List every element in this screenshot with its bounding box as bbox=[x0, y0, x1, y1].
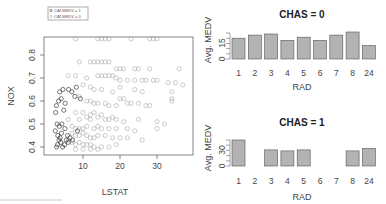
scatter-point bbox=[133, 87, 137, 91]
scatter-point bbox=[99, 127, 103, 131]
scatter-point bbox=[59, 131, 63, 135]
scatter-point bbox=[63, 127, 67, 131]
bar-chas-1-ylabel: Avg. MEDV bbox=[203, 125, 213, 171]
bar-chas-1-x-axis: 1234567824 bbox=[236, 176, 374, 186]
bar bbox=[281, 151, 294, 166]
scatter-ytick-0.6: 0.6 bbox=[27, 95, 37, 107]
scatter-point bbox=[66, 74, 70, 78]
scatter-point bbox=[177, 67, 181, 71]
scatter-point bbox=[148, 67, 152, 71]
scatter-point bbox=[118, 85, 122, 89]
scatter-point bbox=[125, 127, 129, 131]
scatter-point bbox=[88, 147, 92, 151]
bar-chas-0-ytick-15: 15 bbox=[217, 38, 227, 48]
scatter-point bbox=[122, 120, 126, 124]
scatter-point bbox=[173, 81, 177, 85]
scatter-point bbox=[96, 133, 100, 137]
scatter-point bbox=[74, 147, 78, 151]
scatter-point bbox=[88, 117, 92, 121]
scatter-point bbox=[181, 83, 185, 87]
scatter-point bbox=[73, 94, 77, 98]
bar-chart-chas-0-title: CHAS = 0 bbox=[279, 9, 325, 20]
scatter-point bbox=[71, 138, 75, 142]
bar-xtick: 6 bbox=[318, 68, 323, 78]
bar bbox=[314, 40, 327, 59]
scatter-point bbox=[96, 147, 100, 151]
bars-chas-1 bbox=[232, 140, 375, 166]
scatter-point bbox=[74, 110, 78, 114]
scatter-point bbox=[125, 78, 129, 82]
scatter-xtick-20: 20 bbox=[115, 161, 125, 171]
scatter-ylabel: NOX bbox=[6, 86, 16, 106]
scatter-point bbox=[63, 101, 67, 105]
bar bbox=[346, 32, 359, 59]
bar-xtick: 24 bbox=[364, 176, 374, 186]
bar-xtick: 6 bbox=[318, 176, 323, 186]
scatter-point bbox=[107, 127, 111, 131]
bar-xtick: 2 bbox=[252, 68, 257, 78]
bar-xtick: 3 bbox=[269, 176, 274, 186]
bar-xtick: 4 bbox=[285, 68, 290, 78]
scatter-point bbox=[92, 87, 96, 91]
scatter-point bbox=[85, 124, 89, 128]
bar-chas-0-xlabel: RAD bbox=[292, 82, 312, 92]
scatter-point bbox=[77, 60, 81, 64]
scatter-x-axis bbox=[83, 155, 157, 159]
bar-xtick: 2 bbox=[252, 176, 257, 186]
bar bbox=[330, 35, 343, 59]
scatter-point bbox=[114, 127, 118, 131]
scatter-point bbox=[62, 108, 66, 112]
scatter-xtick-30: 30 bbox=[152, 161, 162, 171]
bar-xtick: 1 bbox=[236, 68, 241, 78]
scatter-point bbox=[59, 97, 63, 101]
bar-chas-0-x-axis: 1234567824 bbox=[236, 68, 374, 78]
scatter-point bbox=[129, 37, 133, 41]
bar bbox=[297, 37, 310, 59]
bar bbox=[297, 150, 310, 166]
legend-label-cat1: CAT.MEDV = 1 bbox=[54, 8, 81, 13]
bar-xtick: 3 bbox=[269, 68, 274, 78]
scatter-point bbox=[77, 117, 81, 121]
scatter-point bbox=[74, 74, 78, 78]
scatter-point bbox=[54, 110, 58, 114]
scatter-point bbox=[114, 117, 118, 121]
scatter-point bbox=[136, 101, 140, 105]
scatter-y-axis bbox=[40, 55, 44, 147]
bar bbox=[248, 35, 261, 59]
scatter-point bbox=[114, 104, 118, 108]
bar-xtick: 5 bbox=[301, 176, 306, 186]
bar-xtick: 8 bbox=[350, 176, 355, 186]
scatter-point bbox=[162, 122, 166, 126]
scatter-point bbox=[96, 115, 100, 119]
scatter-point bbox=[140, 90, 144, 94]
scatter-point bbox=[118, 78, 122, 82]
bar bbox=[346, 151, 359, 166]
scatter-ytick-0.8: 0.8 bbox=[27, 49, 37, 61]
scatter-point bbox=[65, 133, 69, 137]
bar bbox=[265, 150, 278, 166]
scatter-point bbox=[140, 138, 144, 142]
scatter-xlabel: LSTAT bbox=[102, 187, 129, 197]
bar-xtick: 8 bbox=[350, 68, 355, 78]
bar bbox=[362, 148, 375, 166]
scatter-point bbox=[136, 117, 140, 121]
bar bbox=[281, 40, 294, 59]
scatter-point bbox=[81, 83, 85, 87]
scatter-point bbox=[125, 136, 129, 140]
bar-xtick: 24 bbox=[364, 68, 374, 78]
scatter-point bbox=[107, 145, 111, 149]
bar-chas-1-ytick-0: 0 bbox=[217, 163, 227, 168]
scatter-point bbox=[133, 78, 137, 82]
bar-xtick: 4 bbox=[285, 176, 290, 186]
scatter-point bbox=[70, 90, 74, 94]
scatter-point bbox=[111, 90, 115, 94]
scatter-point bbox=[66, 117, 70, 121]
scatter-point bbox=[114, 143, 118, 147]
bar-chart-chas-1: CHAS = 1 0 30 Avg. MEDV 1234567824 RAD bbox=[203, 117, 375, 202]
scatter-point bbox=[107, 104, 111, 108]
scatter-point bbox=[74, 37, 78, 41]
bar-chas-1-xlabel: RAD bbox=[292, 192, 312, 202]
scatter-ytick-0.5: 0.5 bbox=[27, 118, 37, 130]
chart-canvas: CAT.MEDV = 1 CAT.MEDV = 0 0.8 0.7 0.6 0.… bbox=[0, 0, 386, 204]
scatter-point bbox=[155, 120, 159, 124]
